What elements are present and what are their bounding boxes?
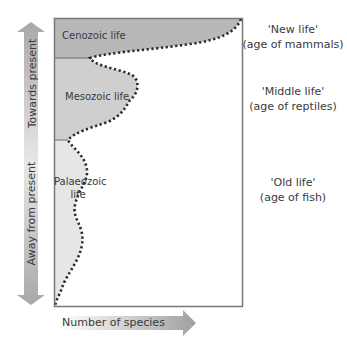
- annotation-middle-life-subtitle: (age of reptiles): [238, 99, 347, 114]
- annotation-old-life: 'Old life' (age of fish): [238, 175, 347, 205]
- palaeozoic-label: Palaeozoic life: [54, 175, 102, 201]
- annotation-middle-life: 'Middle life' (age of reptiles): [238, 84, 347, 114]
- mesozoic-label: Mesozoic life: [65, 91, 129, 102]
- palaeozoic-label-line2: life: [54, 188, 102, 201]
- annotation-middle-life-title: 'Middle life': [238, 84, 347, 99]
- away-from-present-label: Away from present: [25, 158, 38, 270]
- towards-present-label: Towards present: [26, 36, 39, 132]
- number-of-species-label: Number of species: [62, 316, 165, 329]
- annotation-new-life-subtitle: (age of mammals): [238, 37, 347, 52]
- annotation-old-life-title: 'Old life': [238, 175, 347, 190]
- cenozoic-label: Cenozoic life: [62, 30, 126, 41]
- annotation-new-life-title: 'New life': [238, 22, 347, 37]
- palaeozoic-label-line1: Palaeozoic: [54, 175, 102, 188]
- palaeozoic-region: [55, 140, 87, 306]
- annotation-new-life: 'New life' (age of mammals): [238, 22, 347, 52]
- annotation-old-life-subtitle: (age of fish): [238, 190, 347, 205]
